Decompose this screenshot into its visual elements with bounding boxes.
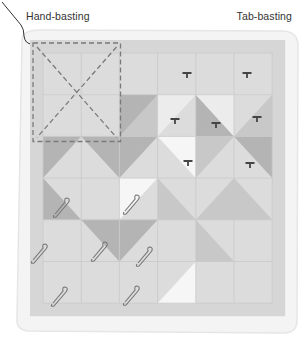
quilt-diagram xyxy=(0,0,306,339)
